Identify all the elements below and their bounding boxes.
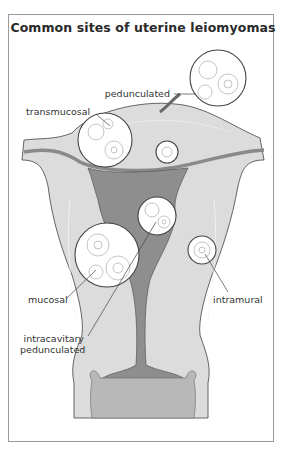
label-intramural: intramural (213, 294, 263, 305)
label-intracavitary-2: pedunculated (20, 344, 84, 355)
fibroid-intracavitary (138, 197, 176, 235)
label-transmucosal: transmucosal (26, 106, 90, 117)
uterus-diagram (0, 0, 286, 450)
fibroid-transmucosal (78, 113, 132, 167)
fibroid-pedunculated (190, 50, 246, 106)
label-intracavitary-1: intracavitary (20, 333, 84, 344)
label-pedunculated: pedunculated (96, 88, 170, 99)
uterus-body (22, 103, 264, 418)
fibroid-small-subserosal (156, 141, 178, 163)
fibroid-intramural (188, 236, 216, 264)
fibroid-mucosal (75, 223, 139, 287)
label-mucosal: mucosal (28, 294, 68, 305)
